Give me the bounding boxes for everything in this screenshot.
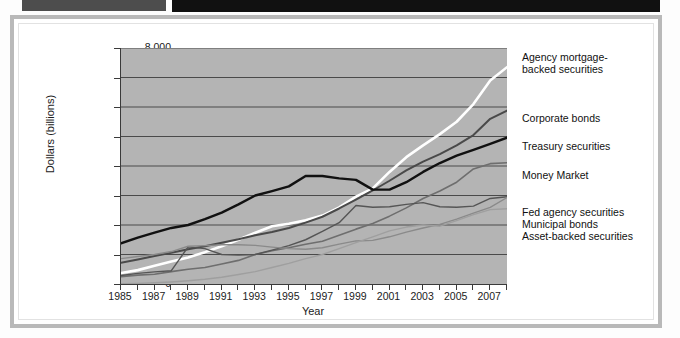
top-black-strip bbox=[172, 0, 660, 12]
legend-label: Agency mortgage- backed securities bbox=[522, 51, 608, 75]
legend-label: Treasury securities bbox=[522, 140, 610, 152]
x-tick-mark bbox=[254, 285, 255, 290]
plot-area bbox=[120, 48, 507, 285]
x-tick-mark bbox=[389, 285, 390, 290]
line-chart: 01,0002,0003,0004,0005,0006,0007,0008,00… bbox=[19, 24, 663, 329]
legend-label: Money Market bbox=[522, 169, 589, 181]
x-axis-title: Year bbox=[120, 305, 506, 317]
x-tick-mark bbox=[288, 285, 289, 290]
x-tick-mark bbox=[422, 285, 423, 290]
legend-label: Asset-backed securities bbox=[522, 230, 633, 242]
legend-label: Corporate bonds bbox=[522, 112, 600, 124]
x-tick-mark bbox=[489, 285, 490, 290]
legend-label: Fed agency securities bbox=[522, 206, 624, 218]
x-tick-mark bbox=[506, 285, 507, 290]
x-tick-mark bbox=[187, 285, 188, 290]
legend: Agency mortgage- backed securitiesCorpor… bbox=[517, 48, 663, 284]
x-tick-mark bbox=[456, 285, 457, 290]
x-tick-label: 2007 bbox=[467, 290, 511, 302]
series-line bbox=[121, 138, 507, 244]
x-tick-mark bbox=[221, 285, 222, 290]
x-tick-mark bbox=[355, 285, 356, 290]
figure-frame: 01,0002,0003,0004,0005,0006,0007,0008,00… bbox=[10, 15, 662, 328]
top-gray-strip bbox=[22, 0, 166, 11]
x-tick-mark bbox=[154, 285, 155, 290]
y-axis-title: Dollars (billions) bbox=[44, 59, 56, 209]
figure-frame-inner: 01,0002,0003,0004,0005,0006,0007,0008,00… bbox=[18, 23, 654, 320]
x-tick-mark bbox=[120, 285, 121, 290]
x-tick-mark bbox=[321, 285, 322, 290]
figure-page: 01,0002,0003,0004,0005,0006,0007,0008,00… bbox=[0, 0, 680, 338]
legend-label: Municipal bonds bbox=[522, 218, 598, 230]
series-canvas bbox=[121, 48, 507, 284]
series-line bbox=[121, 197, 507, 276]
